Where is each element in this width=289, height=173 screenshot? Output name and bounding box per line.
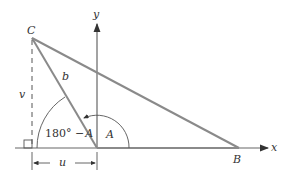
- label-x: x: [271, 141, 278, 154]
- label-v: v: [19, 88, 26, 101]
- label-y: y: [92, 8, 100, 21]
- label-angle-supp: 180° −A: [45, 127, 93, 140]
- label-b: b: [62, 70, 69, 83]
- triangle-diagram: C y x B b v u A 180° −A: [0, 0, 289, 173]
- angle-arc-supp: [37, 97, 65, 148]
- label-angle-A: A: [105, 128, 114, 141]
- label-B: B: [232, 153, 241, 166]
- label-u: u: [59, 156, 66, 169]
- right-angle-marker: [24, 140, 32, 148]
- label-C: C: [27, 24, 36, 37]
